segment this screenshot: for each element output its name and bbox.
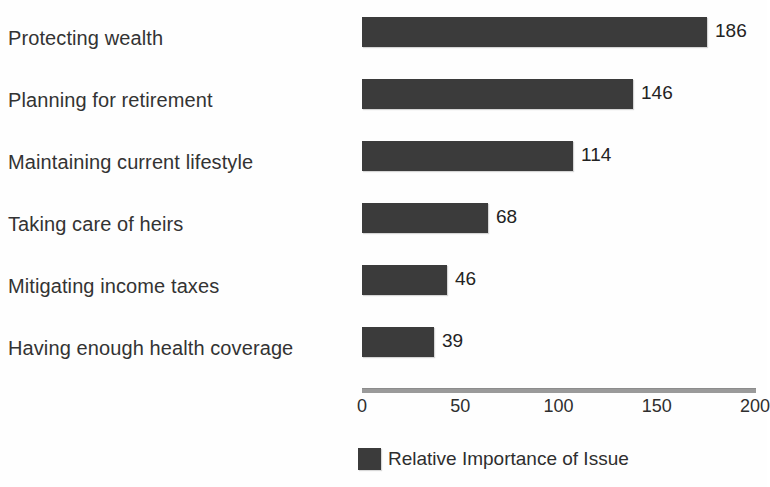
bar (362, 17, 707, 47)
bar-value-label: 186 (715, 20, 747, 42)
legend-color-swatch (358, 448, 381, 470)
axis-tick-label: 0 (357, 396, 367, 417)
bar (362, 203, 488, 233)
legend-label: Relative Importance of Issue (388, 448, 629, 470)
value-axis-line (362, 388, 756, 393)
axis-tick-label: 150 (642, 396, 672, 417)
bar (362, 265, 447, 295)
bar-value-label: 114 (581, 144, 611, 166)
axis-tick-label: 100 (543, 396, 573, 417)
axis-tick-label: 200 (740, 396, 770, 417)
bar-value-label: 46 (455, 268, 476, 290)
bar-value-label: 146 (641, 82, 673, 104)
bar-value-label: 39 (442, 330, 463, 352)
bar-value-label: 68 (496, 206, 517, 228)
bar (362, 327, 434, 357)
bar (362, 79, 633, 109)
chart-legend: Relative Importance of Issue (358, 448, 629, 470)
bar (362, 141, 573, 171)
axis-tick-label: 50 (450, 396, 470, 417)
